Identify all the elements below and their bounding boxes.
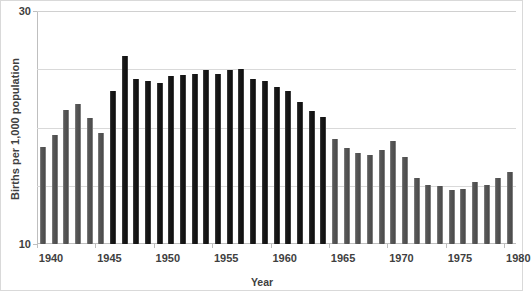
bar [484, 185, 490, 244]
bar [507, 172, 513, 244]
bar [110, 91, 116, 244]
x-tick-label: 1960 [272, 252, 296, 264]
bar [203, 70, 209, 244]
bar [390, 141, 396, 244]
bar [344, 148, 350, 244]
x-tick-mark [37, 244, 38, 248]
bar [133, 79, 139, 244]
x-tick-label: 1955 [214, 252, 238, 264]
x-tick-mark [271, 244, 272, 248]
bar [180, 75, 186, 244]
x-tick-mark [504, 244, 505, 248]
y-axis-title: Births per 1,000 population [9, 29, 21, 229]
bar [425, 185, 431, 244]
x-tick-mark [154, 244, 155, 248]
bars [37, 11, 516, 244]
x-tick-label: 1965 [331, 252, 355, 264]
y-tick-label: 10 [19, 238, 31, 250]
x-tick-mark [212, 244, 213, 248]
bar [460, 189, 466, 244]
bar [215, 74, 221, 244]
bar [40, 147, 46, 244]
x-axis-title: Year [0, 276, 524, 288]
bar [355, 153, 361, 244]
x-tick-label: 1980 [506, 252, 530, 264]
bar [192, 74, 198, 244]
bar [87, 118, 93, 244]
bar [98, 133, 104, 244]
bar [414, 178, 420, 244]
bar [262, 81, 268, 244]
x-tick-mark [446, 244, 447, 248]
bar [495, 178, 501, 244]
x-tick-label: 1940 [39, 252, 63, 264]
plot-area: 3010 19401945195019551960196519701975198… [37, 11, 516, 244]
bar [472, 182, 478, 244]
bar [285, 91, 291, 244]
bar [274, 87, 280, 244]
x-tick-label: 1950 [156, 252, 180, 264]
bar [402, 157, 408, 244]
bar [63, 110, 69, 244]
x-tick-label: 1945 [97, 252, 121, 264]
bar [168, 76, 174, 244]
bar [52, 135, 58, 245]
y-tick-label: 30 [19, 5, 31, 17]
bar [238, 69, 244, 244]
x-tick-mark [95, 244, 96, 248]
x-tick-mark [329, 244, 330, 248]
bar [449, 190, 455, 244]
bar [145, 81, 151, 244]
bar [320, 117, 326, 244]
bar [227, 70, 233, 244]
bar [332, 139, 338, 244]
bar [379, 150, 385, 244]
x-tick-label: 1975 [448, 252, 472, 264]
bar [367, 155, 373, 244]
bar [157, 83, 163, 244]
bar [250, 79, 256, 244]
bar [122, 56, 128, 244]
bar [309, 111, 315, 244]
bar [75, 104, 81, 244]
x-tick-label: 1970 [389, 252, 413, 264]
x-tick-mark [387, 244, 388, 248]
y-tick-mark [33, 11, 37, 12]
bar [437, 186, 443, 244]
bar [297, 102, 303, 244]
